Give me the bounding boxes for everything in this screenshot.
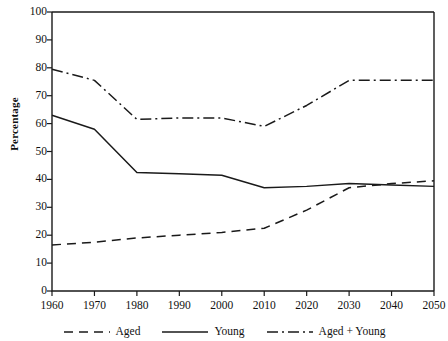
series-line-aged [52,181,434,245]
legend-swatch-dashed-icon [63,327,111,337]
axis-spines [52,12,434,291]
legend-label: Young [214,326,244,338]
series-line-young [52,115,434,188]
chart-legend: AgedYoungAged + Young [0,322,448,341]
plot-area [0,0,448,341]
legend-item-aged[interactable]: Aged [63,326,141,338]
series-line-aged-young [52,69,434,126]
legend-swatch-dash-dot-icon [266,327,314,337]
line-chart: Percentage 0102030405060708090100 196019… [0,0,448,341]
legend-item-young[interactable]: Young [161,326,244,338]
legend-item-aged-young[interactable]: Aged + Young [266,326,386,338]
legend-label: Aged [116,326,141,338]
legend-label: Aged + Young [319,326,386,338]
legend-swatch-solid-icon [161,327,209,337]
